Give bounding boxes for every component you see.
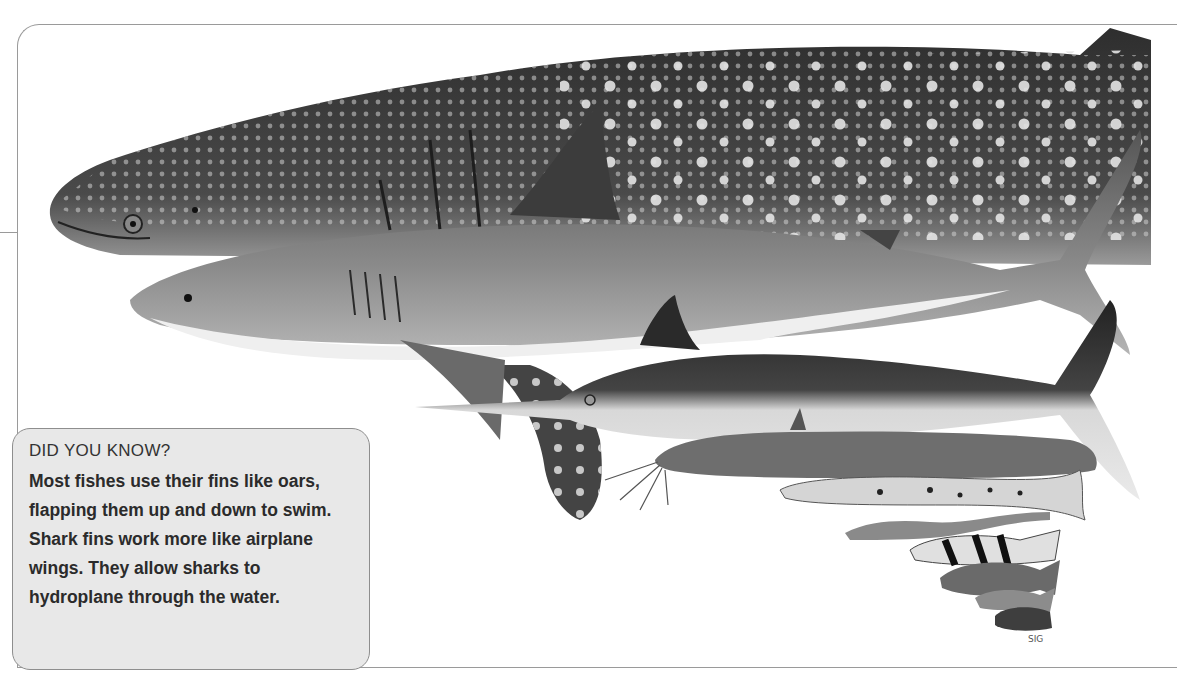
- did-you-know-callout: DID YOU KNOW? Most fishes use their fins…: [12, 428, 370, 670]
- small-fishes: [910, 530, 1060, 631]
- artist-signature: SIG: [1028, 634, 1043, 644]
- eel: [845, 512, 1050, 540]
- callout-body: Most fishes use their fins like oars, fl…: [29, 467, 355, 612]
- callout-title: DID YOU KNOW?: [29, 441, 355, 461]
